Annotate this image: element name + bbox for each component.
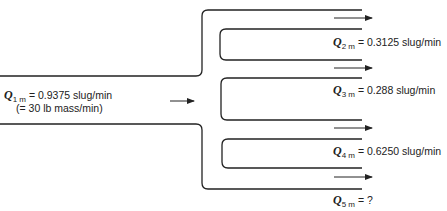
inlet-note: (= 30 lb mass/min) <box>16 102 103 114</box>
outlet-5-label: Q5 m = ? <box>333 193 373 208</box>
inlet-label: Q1 m = 0.9375 slug/min <box>4 88 112 103</box>
outlet-3-value: = 0.288 slug/min <box>358 84 435 96</box>
outlet-2-label: Q2 m = 0.3125 slug/min <box>333 35 441 50</box>
outlet-3-symbol: Q <box>333 83 342 97</box>
outlet-4-value: = 0.6250 slug/min <box>358 145 441 157</box>
outlet-5-symbol: Q <box>333 193 342 207</box>
outlet-5-value: = ? <box>358 194 373 206</box>
outlet-4-symbol: Q <box>333 144 342 158</box>
outlet-2-value: = 0.3125 slug/min <box>358 36 441 48</box>
outlet-3-subscript: 3 m <box>342 90 355 99</box>
outlet-4-subscript: 4 m <box>342 151 355 160</box>
outlet-5-subscript: 5 m <box>342 200 355 209</box>
outer-wall-top <box>0 10 362 76</box>
outlet-4-label: Q4 m = 0.6250 slug/min <box>333 144 441 159</box>
outlet-2-subscript: 2 m <box>342 42 355 51</box>
outer-wall-bottom <box>0 124 362 189</box>
outlet-3-label: Q3 m = 0.288 slug/min <box>333 83 435 98</box>
inlet-symbol: Q <box>4 88 13 102</box>
inlet-value: = 0.9375 slug/min <box>29 89 112 101</box>
outlet-2-symbol: Q <box>333 35 342 49</box>
